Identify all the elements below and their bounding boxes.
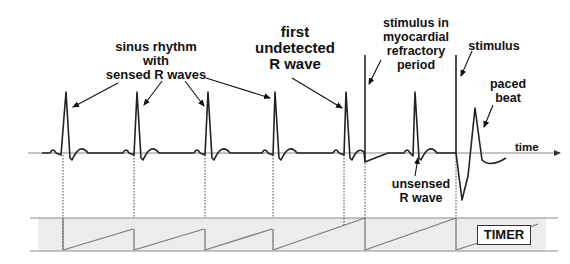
pacemaker-undersensing-diagram: sinus rhythm with sensed R waves first u…: [0, 0, 570, 264]
unsensed-r-wave-label: unsensed R wave: [376, 178, 466, 206]
stimulus-refractory-label: stimulus in myocardial refractory period: [366, 16, 466, 72]
stimulus-label: stimulus: [463, 40, 525, 54]
time-axis-label: time: [515, 141, 545, 153]
first-undetected-r-wave-label: first undetected R wave: [240, 24, 350, 71]
paced-beat-label: paced beat: [478, 78, 538, 106]
timer-label: TIMER: [477, 225, 531, 245]
sinus-rhythm-label: sinus rhythm with sensed R waves: [96, 40, 216, 82]
